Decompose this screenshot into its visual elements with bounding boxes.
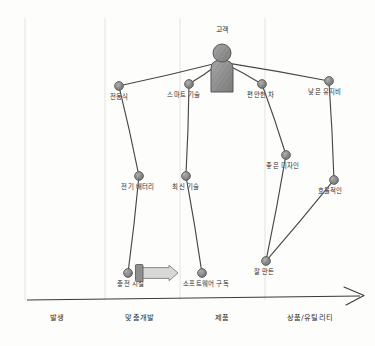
node-dot-hatch (115, 82, 124, 91)
arrow-tail-block (136, 265, 144, 282)
node-label: 소프트웨어 구독 (183, 281, 229, 288)
dependency-edge (186, 88, 189, 172)
dependency-edge (187, 180, 202, 269)
arrow-body (139, 265, 178, 281)
axis-stage-label: 발생 (50, 312, 65, 322)
axis-stage-label: 맞춤개발 (125, 312, 154, 322)
node-label: 스마트 기술 (167, 92, 200, 99)
wardley-map-canvas: 고객전동식스마트 기술편안한 차낮은 유지비전기 배터리최신 기술좋은 디자인효… (0, 0, 375, 346)
node-label: 최신 기술 (172, 184, 199, 191)
anchor-body-hatch (211, 60, 233, 92)
node-label: 전동식 (110, 94, 129, 101)
map-vector-layer (0, 0, 375, 346)
node-dot-hatch (198, 269, 207, 278)
node-dot-hatch (325, 77, 334, 86)
node-label: 편안한 차 (247, 92, 274, 99)
map-node[interactable] (198, 269, 207, 278)
node-label: 전기 배터리 (121, 184, 154, 191)
evolution-arrow (136, 265, 179, 282)
axis-stage-label: 제품 (215, 312, 230, 322)
node-dot-hatch (258, 80, 267, 89)
node-label: 좋은 디자인 (266, 163, 299, 170)
node-dot-hatch (262, 257, 271, 266)
evolution-stage-gridlines (25, 18, 265, 300)
dependency-edge (329, 85, 334, 176)
map-node[interactable] (282, 151, 291, 160)
map-node[interactable] (258, 80, 267, 89)
dependency-edge (123, 64, 213, 85)
node-label: 충전 시설 (117, 281, 144, 288)
node-label: 효율적인 (318, 188, 343, 195)
map-node[interactable] (135, 172, 144, 181)
dependency-edge (230, 66, 258, 82)
map-node[interactable] (330, 176, 339, 185)
map-node[interactable] (115, 82, 124, 91)
evolution-axis-line (27, 287, 364, 305)
node-dot-hatch (330, 176, 339, 185)
node-dot-hatch (124, 269, 133, 278)
axis-stage-label: 상품/유틸리티 (287, 312, 334, 322)
map-node[interactable] (182, 172, 191, 181)
axis-baseline (27, 296, 360, 300)
anchor-user-icon[interactable] (211, 44, 233, 92)
node-dot-hatch (182, 172, 191, 181)
map-node[interactable] (124, 269, 133, 278)
node-dot-hatch (185, 80, 194, 89)
node-label: 잘 만든 (254, 269, 275, 276)
dependency-edge (120, 90, 138, 172)
dependency-edge (231, 64, 325, 81)
map-node[interactable] (185, 80, 194, 89)
map-node[interactable] (262, 257, 271, 266)
dependency-edges (120, 64, 334, 269)
anchor-head-hatch (213, 44, 231, 62)
anchor-label: 고객 (216, 27, 228, 35)
map-node[interactable] (325, 77, 334, 86)
node-label: 낮은 유지비 (308, 89, 341, 96)
dependency-edge (129, 180, 139, 269)
node-dot-hatch (135, 172, 144, 181)
evolution-arrow (136, 265, 179, 282)
node-dot-hatch (282, 151, 291, 160)
